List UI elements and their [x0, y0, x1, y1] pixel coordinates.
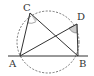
- circumcircle: [17, 11, 79, 73]
- label-b: B: [79, 58, 86, 69]
- geometry-diagram: C D A B: [0, 0, 94, 76]
- label-a: A: [8, 58, 17, 69]
- label-c: C: [23, 2, 31, 13]
- segment-ac: [20, 13, 30, 56]
- segment-ad: [20, 24, 77, 56]
- segment-db: [77, 24, 78, 56]
- segment-cb: [30, 13, 78, 56]
- diagram-canvas: C D A B: [0, 0, 94, 76]
- angle-d-mark: [69, 24, 77, 33]
- label-d: D: [77, 11, 85, 22]
